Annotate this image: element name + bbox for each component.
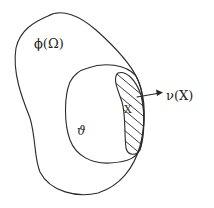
inner-region-label: ϑ xyxy=(77,124,86,138)
normal-label: ν(X) xyxy=(166,88,193,103)
outer-region-label: ϕ(Ω) xyxy=(34,36,64,51)
point-label: X xyxy=(124,103,132,116)
diagram-canvas: ϕ(Ω) ϑ X ν(X) xyxy=(0,0,214,208)
